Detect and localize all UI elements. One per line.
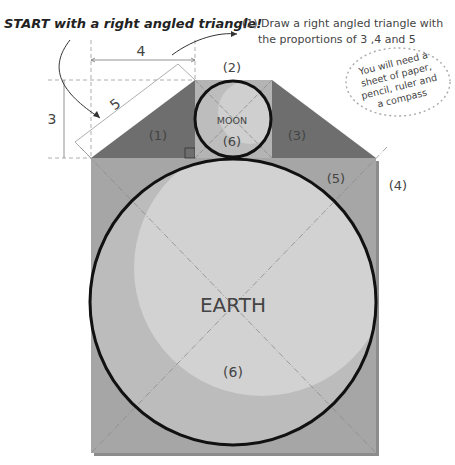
curved-arrow	[172, 34, 237, 55]
label-triangle-right: (3)	[288, 128, 306, 143]
label-outer-square: (4)	[389, 178, 407, 193]
earth-label: EARTH	[200, 293, 266, 317]
label-moon-center: (6)	[223, 134, 241, 149]
dimension-label-5: 5	[107, 95, 124, 113]
label-earth-center: (6)	[223, 364, 243, 380]
label-triangle-left: (1)	[149, 128, 167, 143]
triangle-left	[91, 80, 195, 158]
title-text: START with a right angled triangle!	[4, 16, 262, 31]
label-earth-corner: (5)	[327, 171, 345, 186]
dimension-label-3: 3	[48, 111, 57, 127]
label-moon-square: (2)	[223, 60, 241, 75]
geometry-diagram: START with a right angled triangle! (1) …	[0, 0, 455, 465]
instruction-line1: (1) Draw a right angled triangle with	[242, 17, 443, 30]
curved-arrow	[59, 40, 100, 118]
dimension-label-4: 4	[137, 43, 146, 59]
moon-label: MOON	[217, 115, 247, 126]
instruction-line2: the proportions of 3 ,4 and 5	[258, 33, 416, 46]
